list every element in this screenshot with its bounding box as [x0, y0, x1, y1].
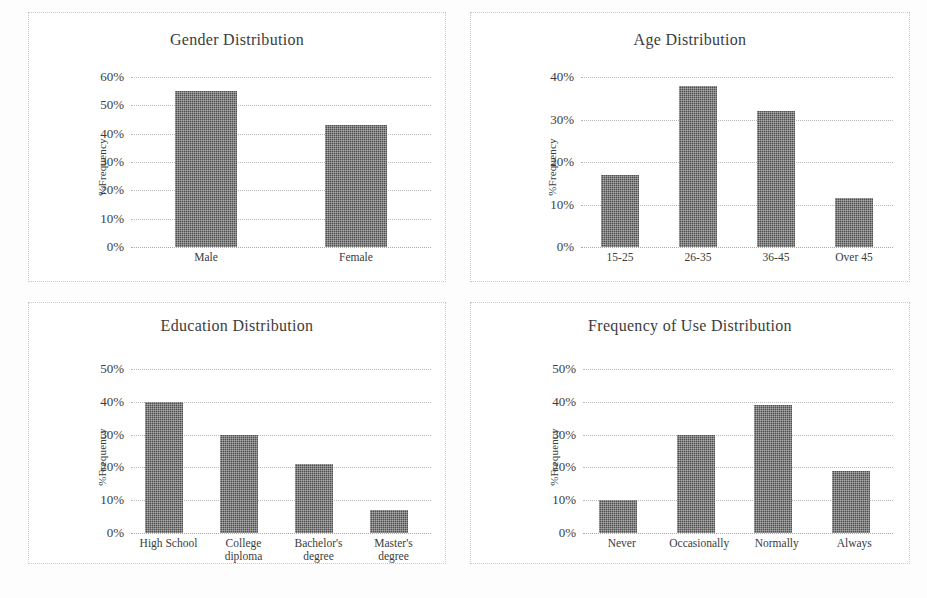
x-axis-tick-label: 26-35 [659, 251, 737, 264]
y-axis-tick-label: 50% [100, 361, 124, 377]
bar-slot [659, 77, 737, 247]
bar [832, 471, 870, 533]
y-axis-tick-label: 40% [100, 393, 124, 409]
y-axis-tick-label: 40% [552, 393, 576, 409]
bar [145, 402, 183, 533]
y-axis-tick-label: 30% [100, 426, 124, 442]
bar-slot [281, 369, 356, 533]
bar-slot [281, 77, 431, 247]
bar [754, 405, 792, 533]
chart-panel-education: Education Distribution %Frequency 0%10%2… [28, 302, 446, 564]
y-axis-tick-label: 20% [100, 182, 124, 198]
y-axis-tick-label: 10% [552, 492, 576, 508]
gender-distribution-chart: Gender Distribution %Frequency 0%10%20%3… [29, 13, 445, 281]
x-axis-tick-label: 36-45 [737, 251, 815, 264]
gridline [131, 533, 431, 534]
y-axis-tick-label: 10% [550, 196, 574, 212]
bar-slot [738, 369, 816, 533]
plot-area-age: 0%10%20%30%40% 15-2526-3536-45Over 45 [581, 77, 893, 247]
bar [679, 86, 717, 248]
y-axis-tick-label: 0% [107, 239, 124, 255]
plot-area-education: 0%10%20%30%40%50% High SchoolCollege dip… [131, 369, 431, 533]
bar [370, 510, 408, 533]
gridline [131, 247, 431, 248]
bar-slot [356, 369, 431, 533]
y-axis-tick-label: 30% [550, 111, 574, 127]
x-axis-tick-label: College diploma [206, 537, 281, 563]
bar-slot [815, 77, 893, 247]
bar-group-frequency [583, 369, 893, 533]
chart-title-education: Education Distribution [29, 317, 445, 335]
bar [677, 435, 715, 533]
y-axis-tick-label: 50% [552, 361, 576, 377]
bar-slot [816, 369, 894, 533]
y-axis-tick-label: 0% [559, 525, 576, 541]
bar [295, 464, 333, 533]
y-axis-tick-label: 10% [100, 210, 124, 226]
chart-title-frequency: Frequency of Use Distribution [471, 317, 909, 335]
x-axis-labels-education: High SchoolCollege diplomaBachelor's deg… [131, 537, 431, 563]
bar-slot [583, 369, 661, 533]
x-axis-labels-frequency: NeverOccasionallyNormallyAlways [583, 537, 893, 550]
bar-slot [581, 77, 659, 247]
y-axis-tick-label: 0% [557, 239, 574, 255]
bar-group-education [131, 369, 431, 533]
x-axis-tick-label: High School [131, 537, 206, 563]
gridline [583, 533, 893, 534]
bar-group-gender [131, 77, 431, 247]
bar [835, 198, 873, 247]
chart-panel-gender: Gender Distribution %Frequency 0%10%20%3… [28, 12, 446, 282]
y-axis-tick-label: 20% [550, 154, 574, 170]
bar [220, 435, 258, 533]
x-axis-tick-label: Bachelor's degree [281, 537, 356, 563]
bar-slot [661, 369, 739, 533]
x-axis-tick-label: Normally [738, 537, 816, 550]
x-axis-tick-label: Never [583, 537, 661, 550]
bar-slot [131, 369, 206, 533]
y-axis-tick-label: 20% [552, 459, 576, 475]
x-axis-labels-gender: MaleFemale [131, 251, 431, 264]
y-axis-tick-label: 60% [100, 69, 124, 85]
y-axis-tick-label: 0% [107, 525, 124, 541]
y-axis-tick-label: 10% [100, 492, 124, 508]
chart-title-gender: Gender Distribution [29, 31, 445, 49]
chart-title-age: Age Distribution [471, 31, 909, 49]
education-distribution-chart: Education Distribution %Frequency 0%10%2… [29, 303, 445, 563]
plot-area-frequency: 0%10%20%30%40%50% NeverOccasionallyNorma… [583, 369, 893, 533]
x-axis-tick-label: Occasionally [661, 537, 739, 550]
y-axis-tick-label: 30% [552, 426, 576, 442]
plot-area-gender: 0%10%20%30%40%50%60% MaleFemale [131, 77, 431, 247]
bar [757, 111, 795, 247]
age-distribution-chart: Age Distribution %Frequency 0%10%20%30%4… [471, 13, 909, 281]
x-axis-tick-label: Female [281, 251, 431, 264]
bar-slot [206, 369, 281, 533]
y-axis-tick-label: 20% [100, 459, 124, 475]
chart-panel-age: Age Distribution %Frequency 0%10%20%30%4… [470, 12, 910, 282]
chart-panel-frequency: Frequency of Use Distribution %Frequency… [470, 302, 910, 564]
bar [599, 500, 637, 533]
y-axis-tick-label: 40% [100, 125, 124, 141]
bar-slot [737, 77, 815, 247]
x-axis-tick-label: Male [131, 251, 281, 264]
y-axis-tick-label: 40% [550, 69, 574, 85]
frequency-of-use-distribution-chart: Frequency of Use Distribution %Frequency… [471, 303, 909, 563]
x-axis-tick-label: 15-25 [581, 251, 659, 264]
x-axis-labels-age: 15-2526-3536-45Over 45 [581, 251, 893, 264]
bar [601, 175, 639, 247]
gridline [581, 247, 893, 248]
x-axis-tick-label: Master's degree [356, 537, 431, 563]
bar [325, 125, 387, 247]
x-axis-tick-label: Over 45 [815, 251, 893, 264]
bar [175, 91, 237, 247]
y-axis-tick-label: 50% [100, 97, 124, 113]
y-axis-tick-label: 30% [100, 154, 124, 170]
bar-slot [131, 77, 281, 247]
x-axis-tick-label: Always [816, 537, 894, 550]
bar-group-age [581, 77, 893, 247]
